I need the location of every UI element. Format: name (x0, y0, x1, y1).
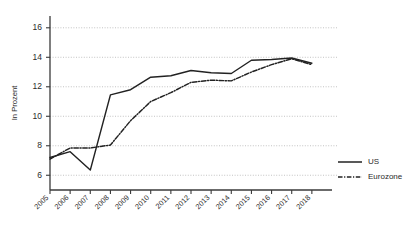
x-tick-label-2005: 2005 (32, 193, 50, 211)
x-tick-label-2012: 2012 (173, 193, 191, 211)
x-tick-label-2017: 2017 (274, 193, 292, 211)
line-chart: 6810121416 20052006200720082009201020112… (0, 0, 410, 230)
x-tick-label-2006: 2006 (53, 193, 71, 211)
legend-label-eurozone: Eurozone (368, 172, 403, 181)
y-tick-label-8: 8 (37, 140, 42, 150)
x-axis-ticks: 2005200620072008200920102011201220132014… (32, 190, 312, 211)
x-tick-label-2008: 2008 (93, 193, 111, 211)
y-tick-label-10: 10 (33, 111, 43, 121)
x-tick-label-2014: 2014 (214, 193, 232, 211)
y-tick-label-12: 12 (33, 81, 43, 91)
x-tick-label-2018: 2018 (294, 193, 312, 211)
y-tick-label-14: 14 (33, 52, 43, 62)
y-tick-label-16: 16 (33, 22, 43, 32)
x-tick-label-2015: 2015 (234, 193, 252, 211)
x-tick-label-2007: 2007 (73, 193, 91, 211)
x-tick-label-2009: 2009 (113, 193, 131, 211)
legend-label-us: US (368, 157, 379, 166)
y-axis-title: In Prozent (10, 85, 19, 121)
x-tick-label-2016: 2016 (254, 193, 272, 211)
legend: US Eurozone (338, 157, 403, 181)
y-tick-label-6: 6 (37, 170, 42, 180)
gridline-group (50, 28, 338, 175)
x-tick-label-2010: 2010 (133, 193, 151, 211)
series-line-us (50, 58, 312, 170)
x-tick-label-2011: 2011 (154, 193, 172, 211)
y-axis-ticks: 6810121416 (33, 22, 50, 179)
chart-container: 6810121416 20052006200720082009201020112… (0, 0, 410, 230)
x-tick-label-2013: 2013 (194, 193, 212, 211)
